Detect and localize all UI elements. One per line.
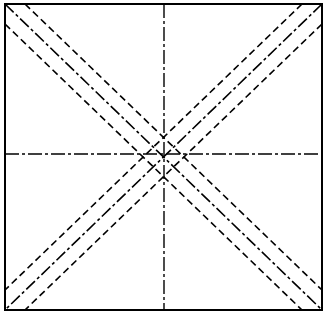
square-diagram [0,0,326,315]
diagram-canvas [0,0,326,315]
